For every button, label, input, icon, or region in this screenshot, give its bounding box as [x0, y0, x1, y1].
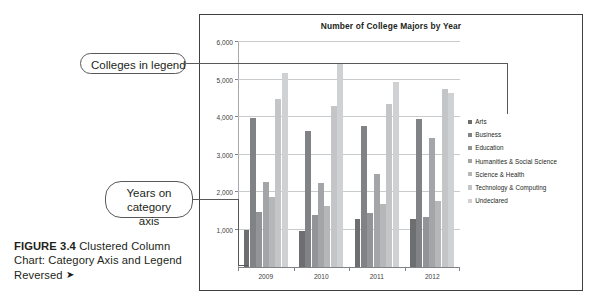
callout-legend-leader-vertical	[507, 63, 508, 114]
y-axis-label: 5,000	[216, 76, 233, 83]
x-axis-label-2011: 2011	[349, 273, 405, 280]
legend-label: Business	[475, 131, 501, 138]
bar	[244, 230, 250, 267]
y-axis-label: 2,000	[216, 189, 233, 196]
legend-item-science-health[interactable]: Science & Health	[468, 168, 580, 181]
bar	[337, 63, 343, 267]
chart-container: Number of College Majors by Year 1,0002,…	[199, 14, 583, 291]
callout-years-on-category-axis: Years on category axis	[105, 181, 193, 218]
bar	[275, 99, 281, 267]
legend-item-education[interactable]: Education	[468, 141, 580, 154]
bar	[282, 73, 288, 267]
x-axis-label-2012: 2012	[405, 273, 461, 280]
legend-swatch-icon	[468, 199, 472, 203]
legend-item-humanities-social-science[interactable]: Humanities & Social Science	[468, 155, 580, 168]
figure-label: FIGURE 3.4	[14, 240, 76, 252]
y-axis-label: 3,000	[216, 151, 233, 158]
legend-label: Science & Health	[475, 171, 524, 178]
x-axis-tick	[349, 267, 350, 271]
bar	[269, 197, 275, 268]
bar	[256, 212, 262, 268]
legend-item-technology-computing[interactable]: Technology & Computing	[468, 181, 580, 194]
bar	[318, 183, 324, 267]
legend-label: Humanities & Social Science	[475, 158, 557, 165]
bar	[442, 89, 448, 267]
bar-group-2010: 2010	[294, 42, 350, 267]
bar	[374, 174, 380, 267]
x-axis-tick	[294, 267, 295, 271]
bar	[367, 213, 373, 267]
legend-label: Undeclared	[475, 197, 508, 204]
bar	[393, 82, 399, 267]
bar	[380, 204, 386, 267]
legend-label: Technology & Computing	[475, 184, 546, 191]
bar	[386, 104, 392, 267]
x-axis-tick	[459, 267, 460, 271]
legend-item-arts[interactable]: Arts	[468, 115, 580, 128]
legend-label: Education	[475, 144, 503, 151]
callout-colleges-in-legend: Colleges in legend	[80, 53, 186, 74]
legend-swatch-icon	[468, 120, 472, 124]
bar	[312, 215, 318, 268]
bar	[324, 206, 330, 267]
bar-group-2011: 2011	[349, 42, 405, 267]
chart-legend: ArtsBusinessEducationHumanities & Social…	[468, 115, 580, 207]
bar-group-2009: 2009	[238, 42, 294, 267]
legend-item-undeclared[interactable]: Undeclared	[468, 194, 580, 207]
bar	[416, 119, 422, 268]
x-axis-tick	[405, 267, 406, 271]
legend-swatch-icon	[468, 172, 472, 176]
y-axis-label: 4,000	[216, 114, 233, 121]
legend-label: Arts	[475, 118, 486, 125]
callout-legend-leader-horizontal	[186, 63, 508, 64]
bar	[435, 201, 441, 267]
bar	[263, 182, 269, 267]
y-axis-label: 6,000	[216, 39, 233, 46]
figure-caption: FIGURE 3.4 Clustered Column Chart: Categ…	[14, 239, 196, 282]
chart-title: Number of College Majors by Year	[200, 21, 582, 31]
bar	[250, 118, 256, 267]
bar	[423, 217, 429, 267]
legend-swatch-icon	[468, 146, 472, 150]
bar	[355, 219, 361, 267]
callout-axis-leader-horizontal	[192, 199, 239, 200]
bar	[429, 138, 435, 267]
callout-axis-leader-tail	[238, 265, 248, 266]
y-axis-label: 1,000	[216, 226, 233, 233]
legend-swatch-icon	[468, 133, 472, 137]
callout-colleges-in-legend-label: Colleges in legend	[91, 59, 186, 71]
legend-swatch-icon	[468, 185, 472, 189]
bar	[410, 219, 416, 267]
bar	[331, 106, 337, 267]
caption-arrow-icon: ➤	[66, 269, 74, 280]
bar	[305, 131, 311, 268]
x-axis-tick	[238, 267, 239, 271]
legend-swatch-icon	[468, 159, 472, 163]
plot-area: 1,0002,0003,0004,0005,0006,000 200920102…	[238, 42, 460, 267]
bar-group-2012: 2012	[405, 42, 461, 267]
x-axis-label-2009: 2009	[238, 273, 294, 280]
x-axis-label-2010: 2010	[294, 273, 350, 280]
bar	[361, 126, 367, 267]
legend-item-business[interactable]: Business	[468, 128, 580, 141]
bar	[448, 93, 454, 267]
callout-years-on-category-axis-label: Years on category axis	[127, 187, 172, 227]
bar	[299, 231, 305, 267]
callout-axis-leader-vertical	[238, 199, 239, 266]
